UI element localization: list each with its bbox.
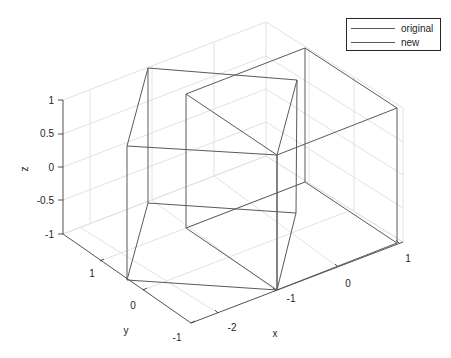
svg-text:0: 0 xyxy=(345,278,351,289)
y-axis-label: y xyxy=(124,325,129,336)
svg-text:0.5: 0.5 xyxy=(40,128,54,139)
axes xyxy=(58,100,403,323)
legend: original new xyxy=(346,18,441,51)
z-axis-label: z xyxy=(19,167,30,172)
legend-label: original xyxy=(401,23,433,34)
svg-text:0: 0 xyxy=(48,162,54,173)
svg-text:1: 1 xyxy=(405,253,411,264)
svg-text:-1: -1 xyxy=(287,293,296,304)
x-tick-labels: -2 -1 0 1 xyxy=(228,253,412,333)
legend-item-new: new xyxy=(351,36,419,48)
legend-label: new xyxy=(401,37,419,48)
x-axis-label: x xyxy=(273,328,278,339)
svg-text:1: 1 xyxy=(89,268,95,279)
z-tick-labels: 1 0.5 0 -0.5 -1 xyxy=(37,95,55,240)
svg-text:0: 0 xyxy=(130,300,136,311)
line-icon xyxy=(351,28,395,29)
plot-area: 1 0.5 0 -0.5 -1 1 0 -1 -2 -1 0 1 z y x xyxy=(0,0,451,358)
svg-text:-0.5: -0.5 xyxy=(37,195,55,206)
svg-text:-1: -1 xyxy=(173,332,182,343)
svg-text:1: 1 xyxy=(48,95,54,106)
svg-text:-2: -2 xyxy=(228,322,237,333)
y-tick-labels: 1 0 -1 xyxy=(89,268,182,343)
line-icon xyxy=(351,42,395,43)
svg-text:-1: -1 xyxy=(45,229,54,240)
legend-item-original: original xyxy=(351,22,433,34)
